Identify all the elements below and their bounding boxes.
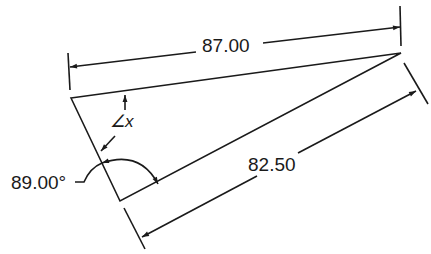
extension-line-bottom-left — [124, 208, 145, 249]
dimension-line-82-right — [298, 91, 416, 153]
angle-label-89: 89.00° — [11, 173, 66, 192]
extension-line-top-right — [400, 6, 401, 46]
dimension-line-87-right — [263, 27, 400, 43]
dimension-line-82-left — [142, 176, 257, 237]
angle-label-x: ∠x — [110, 113, 134, 130]
dimension-label-bottom: 82.50 — [248, 155, 296, 174]
extension-line-bottom-right — [404, 63, 428, 104]
dimensioned-triangle-diagram: 87.00 82.50 89.00° ∠x — [0, 0, 431, 254]
dimension-label-top: 87.00 — [202, 36, 250, 55]
dimension-line-87-left — [70, 52, 196, 67]
angle-leader-89 — [75, 163, 102, 182]
extension-line-top-left — [68, 53, 70, 90]
angle-x-arrow-down — [101, 136, 115, 151]
